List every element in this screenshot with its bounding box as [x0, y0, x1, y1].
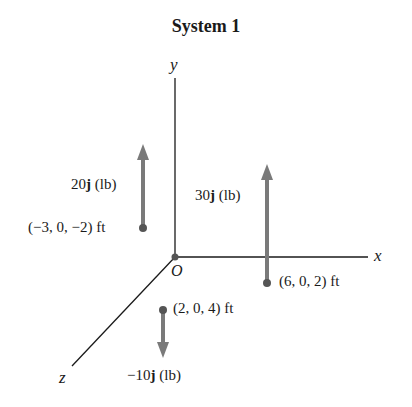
force-arrow-neg10j [157, 306, 169, 358]
x-axis-label: x [374, 246, 382, 266]
position-label-force-2: (6, 0, 2) ft [279, 273, 339, 290]
z-axis-label: z [59, 368, 66, 388]
origin-label: O [171, 262, 183, 280]
force-arrow-30j [261, 164, 273, 287]
force-label-30j: 30j (lb) [195, 187, 240, 204]
position-label-force-3: (2, 0, 4) ft [173, 300, 233, 317]
force-label-20j: 20j (lb) [71, 176, 116, 193]
origin-point [172, 254, 179, 261]
position-label-force-1: (−3, 0, −2) ft [28, 219, 105, 236]
y-axis-label: y [170, 55, 178, 75]
force-label-neg10j: −10j (lb) [127, 367, 181, 384]
force-arrow-20j [137, 144, 149, 232]
